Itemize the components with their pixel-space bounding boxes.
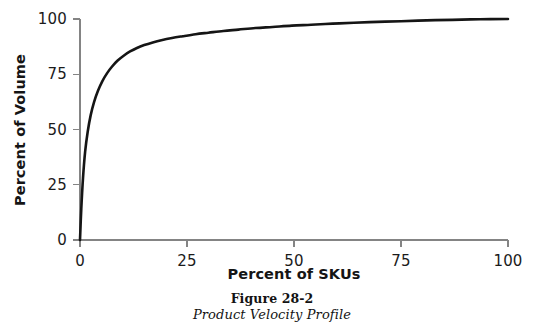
y-tick-label: 0 xyxy=(27,231,67,249)
x-tick-label: 100 xyxy=(493,252,522,270)
figure-container: 0255075100 0255075100 Percent of Volume … xyxy=(0,0,544,330)
x-tick-label: 25 xyxy=(177,252,197,270)
series-group xyxy=(80,19,508,240)
y-axis-tick-marks xyxy=(73,19,80,240)
figure-title: Product Velocity Profile xyxy=(0,306,544,323)
x-tick-label: 75 xyxy=(391,252,411,270)
figure-number: Figure 28-2 xyxy=(0,291,544,306)
y-tick-label: 25 xyxy=(27,176,67,194)
y-tick-label: 50 xyxy=(27,121,67,139)
x-axis-title: Percent of SKUs xyxy=(228,266,361,282)
y-axis-title: Percent of Volume xyxy=(12,50,28,210)
x-tick-label: 0 xyxy=(75,252,85,270)
y-tick-label: 100 xyxy=(27,10,67,28)
x-axis-tick-marks xyxy=(80,240,508,247)
y-tick-label: 75 xyxy=(27,65,67,83)
axes-group xyxy=(73,19,508,247)
velocity-curve xyxy=(80,19,508,240)
figure-caption: Figure 28-2 Product Velocity Profile xyxy=(0,291,544,323)
